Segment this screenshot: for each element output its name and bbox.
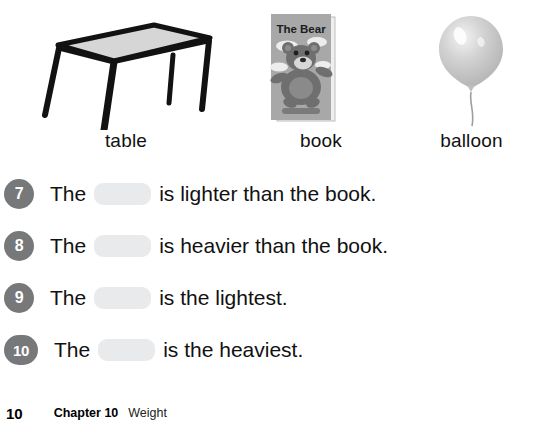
book-cover-title: The Bear xyxy=(276,23,326,35)
question-number-badge: 10 xyxy=(4,335,38,365)
object-label-table: table xyxy=(105,130,147,160)
question-row: 7 The is lighter than the book. xyxy=(0,168,547,220)
footer-page-number: 10 xyxy=(6,405,23,422)
answer-blank[interactable] xyxy=(98,339,155,361)
table-art-container xyxy=(6,8,246,130)
questions-list: 7 The is lighter than the book. 8 The is… xyxy=(0,168,547,376)
answer-blank[interactable] xyxy=(94,235,151,257)
question-text-after: is the heaviest. xyxy=(163,337,303,363)
footer-topic-label: Weight xyxy=(128,406,167,420)
object-item-book: The Bear book xyxy=(246,0,396,160)
question-row: 10 The is the heaviest. xyxy=(0,324,547,376)
question-text-before: The xyxy=(50,285,86,311)
question-text: The is lighter than the book. xyxy=(50,181,376,207)
table-illustration-icon xyxy=(6,8,246,130)
object-item-table: table xyxy=(6,0,246,160)
question-number-badge: 8 xyxy=(4,231,34,261)
question-number-badge: 7 xyxy=(4,179,34,209)
object-label-balloon: balloon xyxy=(440,130,503,160)
objects-row: table xyxy=(0,0,547,160)
answer-blank[interactable] xyxy=(94,287,151,309)
question-text-after: is the lightest. xyxy=(159,285,287,311)
question-text-before: The xyxy=(50,233,86,259)
footer-chapter-label: Chapter 10 xyxy=(54,406,119,420)
book-art-container: The Bear xyxy=(246,8,396,130)
balloon-illustration-icon xyxy=(396,8,547,130)
question-text-after: is lighter than the book. xyxy=(159,181,376,207)
book-illustration-icon: The Bear xyxy=(246,8,396,130)
question-text: The is the heaviest. xyxy=(54,337,303,363)
question-text-before: The xyxy=(54,337,90,363)
question-text: The is heavier than the book. xyxy=(50,233,388,259)
worksheet-page: table xyxy=(0,0,547,434)
object-label-book: book xyxy=(300,130,342,160)
balloon-art-container xyxy=(396,8,547,130)
object-item-balloon: balloon xyxy=(396,0,547,160)
page-footer: 10 Chapter 10 Weight xyxy=(0,402,547,424)
answer-blank[interactable] xyxy=(94,183,151,205)
question-row: 8 The is heavier than the book. xyxy=(0,220,547,272)
question-number-badge: 9 xyxy=(4,283,34,313)
question-row: 9 The is the lightest. xyxy=(0,272,547,324)
question-text-before: The xyxy=(50,181,86,207)
question-text-after: is heavier than the book. xyxy=(159,233,388,259)
question-text: The is the lightest. xyxy=(50,285,288,311)
